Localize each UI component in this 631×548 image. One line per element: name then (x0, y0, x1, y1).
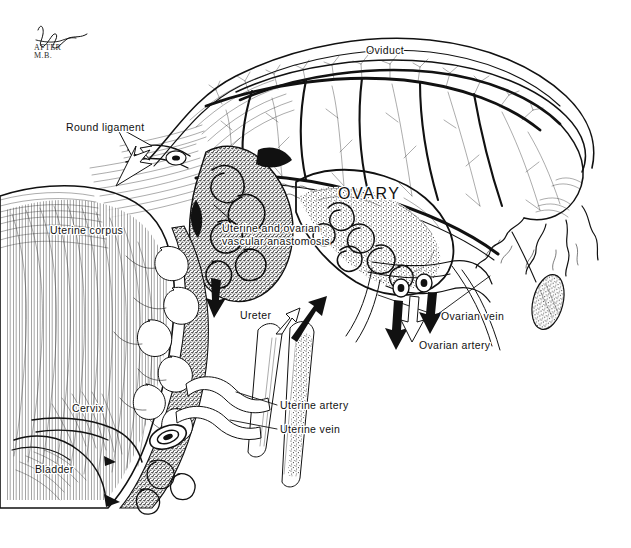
label-ureter: Ureter (240, 309, 271, 321)
label-ovary: OVARY (338, 185, 401, 202)
label-ovarian-vein: Ovarian vein (441, 310, 504, 322)
ovarian-vein-stump-lumen (421, 279, 428, 287)
label-uterine-vein: Uterine vein (280, 423, 340, 435)
label-oviduct: Oviduct (366, 44, 404, 56)
anatomical-illustration: AFTER M.B. OviductOVARYRound ligamentUte… (0, 0, 631, 548)
round-ligament-lumen (172, 155, 180, 160)
label-ovarian-artery: Ovarian artery (419, 339, 491, 351)
label-uterine-corpus: Uterine corpus (50, 224, 123, 236)
label-round-ligament: Round ligament (66, 121, 144, 133)
signature-initials-line: M.B. (34, 51, 52, 60)
label-bladder: Bladder (35, 463, 74, 475)
ovarian-artery-stump-lumen (398, 284, 405, 292)
illustration-canvas: AFTER M.B. OviductOVARYRound ligamentUte… (0, 0, 631, 548)
label-anastomosis-line1: Uterine and ovarian (222, 222, 320, 234)
label-cervix: Cervix (72, 402, 104, 414)
label-anastomosis-line2: vascular anastomosis (222, 235, 330, 247)
label-uterine-artery: Uterine artery (280, 399, 349, 411)
